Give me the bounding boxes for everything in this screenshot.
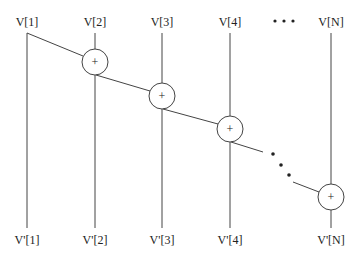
carry-dots-n: [293, 182, 319, 192]
adder-plus-3: +: [159, 89, 166, 103]
adder-plus-2: +: [92, 55, 99, 69]
input-label-n: V[N]: [318, 15, 343, 29]
chain-ellipsis: [271, 152, 291, 177]
carry-4-dots: [231, 142, 263, 152]
top-ellipsis: [273, 19, 294, 22]
output-label-4: V'[4]: [218, 233, 243, 247]
output-label-2: V'[2]: [83, 233, 108, 247]
input-label-4: V[4]: [219, 15, 242, 29]
output-label-n: V'[N]: [317, 233, 345, 247]
prefix-sum-diagram: + + + + V[1] V[2] V[3] V[4] V[N] V'[1] V…: [0, 0, 362, 256]
carry-3-4: [163, 109, 218, 124]
adder-plus-n: +: [328, 190, 335, 204]
input-label-1: V[1]: [16, 15, 39, 29]
carry-2-3: [96, 75, 150, 91]
output-label-3: V'[3]: [150, 233, 175, 247]
adder-plus-4: +: [227, 122, 234, 136]
output-label-1: V'[1]: [15, 233, 40, 247]
input-label-2: V[2]: [84, 15, 107, 29]
carry-1-2: [27, 33, 83, 56]
input-label-3: V[3]: [151, 15, 174, 29]
